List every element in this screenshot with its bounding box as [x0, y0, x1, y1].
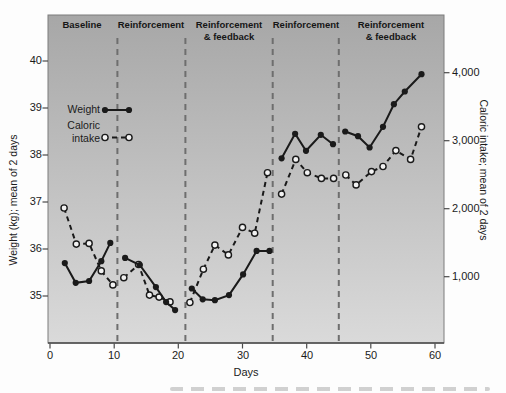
- phase-label-baseline: Baseline: [62, 19, 101, 31]
- phase-label-reinforcement-feedback-1: Reinforcement& feedback: [196, 19, 263, 43]
- y-left-tick-35: 35: [16, 289, 42, 301]
- legend-caloric-marker-icon: [126, 134, 132, 140]
- phase-label-reinforcement-2: Reinforcement: [273, 19, 340, 31]
- weight-data-point: [137, 262, 143, 268]
- weight-data-point: [279, 155, 285, 161]
- phase-label-reinforcement-1: Reinforcement: [118, 19, 185, 31]
- weight-data-point: [391, 101, 397, 107]
- y-left-axis-title: Weight (kg); mean of 2 days: [7, 134, 19, 265]
- weight-data-point: [355, 133, 361, 139]
- weight-data-point: [163, 299, 169, 305]
- x-tick-40: 40: [301, 349, 313, 361]
- caloric-intake-data-point: [279, 191, 285, 197]
- weight-data-point: [292, 131, 298, 137]
- y-right-tick-1000: 1,000: [452, 270, 480, 282]
- y-left-tick-37: 37: [16, 195, 42, 207]
- caloric-intake-data-point: [293, 156, 299, 162]
- weight-data-point: [367, 144, 373, 150]
- caloric-intake-data-point: [200, 266, 206, 272]
- x-tick-10: 10: [108, 349, 120, 361]
- caloric-intake-data-point: [225, 252, 231, 258]
- legend-caloric-marker-icon: [102, 134, 108, 140]
- y-right-tick-3000: 3,000: [452, 134, 480, 146]
- caloric-intake-data-point: [264, 170, 270, 176]
- caloric-intake-data-point: [239, 224, 245, 230]
- weight-data-point: [342, 128, 348, 134]
- x-tick-20: 20: [172, 349, 184, 361]
- weight-data-point: [107, 240, 113, 246]
- caloric-intake-data-point: [393, 148, 399, 154]
- caloric-intake-data-point: [304, 170, 310, 176]
- plot-area: [48, 15, 444, 343]
- weight-data-point: [212, 297, 218, 303]
- weight-data-point: [330, 141, 336, 147]
- weight-data-point: [266, 248, 272, 254]
- caloric-intake-data-point: [61, 205, 67, 211]
- x-tick-50: 50: [365, 349, 377, 361]
- weight-data-point: [303, 148, 309, 154]
- caloric-intake-data-point: [187, 299, 193, 305]
- caloric-intake-data-point: [98, 268, 104, 274]
- weight-data-point: [86, 278, 92, 284]
- caloric-intake-data-point: [86, 240, 92, 246]
- y-left-tick-36: 36: [16, 242, 42, 254]
- caloric-intake-data-point: [343, 172, 349, 178]
- weight-data-point: [380, 124, 386, 130]
- weight-data-point: [226, 292, 232, 298]
- y-right-tick-2000: 2,000: [452, 202, 480, 214]
- y-right-axis-title: Caloric intake; mean of 2 days: [478, 99, 490, 240]
- phase-label-reinforcement-feedback-2: Reinforcement& feedback: [358, 19, 425, 43]
- weight-data-point: [73, 280, 79, 286]
- weight-data-point: [418, 71, 424, 77]
- weight-data-point: [153, 284, 159, 290]
- weight-data-point: [402, 88, 408, 94]
- y-left-tick-38: 38: [16, 148, 42, 160]
- caloric-intake-data-point: [331, 175, 337, 181]
- weight-data-point: [98, 258, 104, 264]
- caloric-intake-data-point: [110, 282, 116, 288]
- legend-caloric-label: Caloric: [58, 119, 100, 132]
- caloric-intake-data-point: [121, 275, 127, 281]
- caloric-intake-data-point: [353, 182, 359, 188]
- legend-weight-label: Weight: [58, 103, 100, 116]
- caloric-intake-data-point: [380, 163, 386, 169]
- caloric-intake-data-point: [146, 292, 152, 298]
- weight-data-point: [318, 132, 324, 138]
- caloric-intake-data-point: [368, 169, 374, 175]
- weight-data-point: [62, 260, 68, 266]
- weight-data-point: [189, 285, 195, 291]
- legend-weight-marker-icon: [126, 107, 132, 113]
- weight-data-point: [172, 307, 178, 313]
- caloric-intake-data-point: [73, 241, 79, 247]
- chart-svg: [0, 0, 506, 393]
- x-tick-0: 0: [47, 349, 53, 361]
- figure: Baseline Reinforcement Reinforcement& fe…: [0, 0, 506, 393]
- legend-caloric-label: intake: [58, 132, 100, 145]
- cropped-caption-fragment: [170, 387, 490, 391]
- x-axis-title: Days: [233, 366, 258, 378]
- y-left-tick-39: 39: [16, 101, 42, 113]
- caloric-intake-data-point: [252, 230, 258, 236]
- caloric-intake-data-point: [212, 242, 218, 248]
- weight-data-point: [240, 271, 246, 277]
- y-left-tick-40: 40: [16, 54, 42, 66]
- y-right-tick-4000: 4,000: [452, 66, 480, 78]
- x-tick-30: 30: [237, 349, 249, 361]
- legend-weight-marker-icon: [102, 107, 108, 113]
- x-tick-60: 60: [429, 349, 441, 361]
- weight-data-point: [122, 255, 128, 261]
- caloric-intake-data-point: [318, 175, 324, 181]
- caloric-intake-data-point: [408, 156, 414, 162]
- caloric-intake-data-point: [418, 124, 424, 130]
- weight-data-point: [254, 248, 260, 254]
- weight-data-point: [200, 296, 206, 302]
